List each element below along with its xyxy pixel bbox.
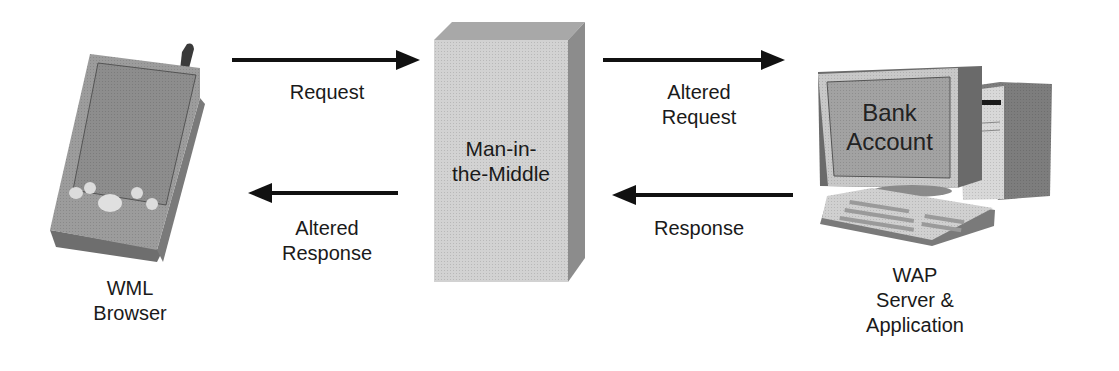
pda-icon <box>50 44 205 262</box>
node-label-wap-server: WAP Server & Application <box>835 263 995 338</box>
arrow-request <box>232 50 420 70</box>
label-line: Bank <box>827 98 952 127</box>
label-line: Response <box>624 216 774 241</box>
label-line: Altered <box>252 216 402 241</box>
arrow-altered-response <box>248 183 398 203</box>
edge-label-altered-request: Altered Request <box>624 80 774 130</box>
arrow-response <box>612 185 793 205</box>
label-line: WML <box>60 276 200 301</box>
label-line: Account <box>827 127 952 156</box>
label-line: Altered <box>624 80 774 105</box>
label-line: Request <box>252 80 402 105</box>
label-line: the-Middle <box>434 161 568 186</box>
desktop-computer-icon <box>818 66 1052 246</box>
label-line: WAP <box>835 263 995 288</box>
edge-label-altered-response: Altered Response <box>252 216 402 266</box>
screen-text-bank-account: Bank Account <box>827 98 952 156</box>
label-line: Application <box>835 313 995 338</box>
label-line: Request <box>624 105 774 130</box>
edge-label-request: Request <box>252 80 402 105</box>
label-line: Response <box>252 241 402 266</box>
arrow-altered-request <box>603 50 785 70</box>
edge-label-response: Response <box>624 216 774 241</box>
node-label-wml-browser: WML Browser <box>60 276 200 326</box>
label-line: Server & <box>835 288 995 313</box>
label-line: Man-in- <box>434 136 568 161</box>
label-line: Browser <box>60 301 200 326</box>
node-label-man-in-the-middle: Man-in- the-Middle <box>434 136 568 186</box>
